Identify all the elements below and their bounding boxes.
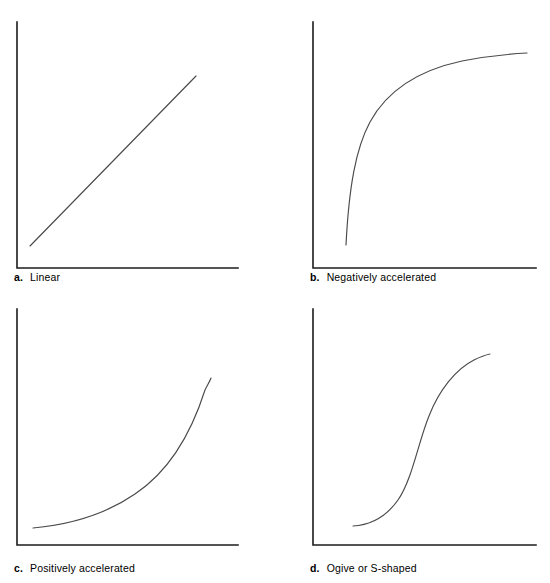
panel-b-plot	[296, 0, 546, 275]
panel-d-letter: d.	[310, 562, 320, 574]
ogive-s-shaped-curve	[353, 354, 490, 526]
panel-a-axes	[17, 22, 238, 268]
panel-c-caption: c.Positively accelerated	[14, 562, 135, 575]
panel-c-label: Positively accelerated	[30, 562, 135, 574]
positively-accelerated-curve	[33, 378, 211, 528]
linear-curve	[30, 76, 196, 246]
panel-a-linear: a.Linear	[0, 0, 250, 290]
panel-c-axes	[17, 309, 238, 545]
learning-curves-figure: a.Linear b.Negatively accelerated c.Posi…	[0, 0, 550, 583]
panel-d-label: Ogive or S-shaped	[327, 562, 417, 574]
panel-b-negatively-accelerated: b.Negatively accelerated	[296, 0, 546, 290]
panel-c-positively-accelerated: c.Positively accelerated	[0, 291, 250, 581]
panel-b-letter: b.	[310, 271, 320, 283]
panel-b-label: Negatively accelerated	[327, 271, 437, 283]
panel-a-label: Linear	[30, 271, 60, 283]
panel-c-plot	[0, 291, 250, 566]
negatively-accelerated-curve	[346, 53, 527, 245]
panel-d-plot	[296, 291, 546, 566]
panel-d-caption: d.Ogive or S-shaped	[310, 562, 417, 575]
panel-c-letter: c.	[14, 562, 23, 574]
panel-a-caption: a.Linear	[14, 271, 60, 284]
panel-d-ogive: d.Ogive or S-shaped	[296, 291, 546, 581]
panel-a-letter: a.	[14, 271, 23, 283]
panel-b-caption: b.Negatively accelerated	[310, 271, 436, 284]
panel-a-plot	[0, 0, 250, 275]
